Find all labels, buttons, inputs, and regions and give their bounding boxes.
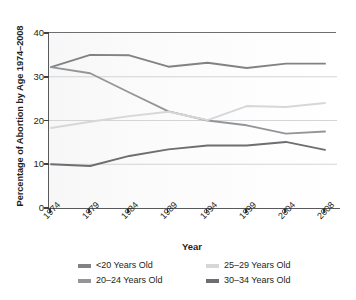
legend-swatch-icon <box>206 264 219 268</box>
legend-swatch-icon <box>206 279 219 283</box>
legend-label: 25–29 Years Old <box>224 258 291 273</box>
y-tick-mark <box>44 163 49 165</box>
legend-label: <20 Years Old <box>96 258 153 273</box>
y-axis-ticks: 010203040 <box>20 0 44 300</box>
chart-legend: <20 Years Old25–29 Years Old20–24 Years … <box>78 258 340 288</box>
legend-item[interactable]: 20–24 Years Old <box>78 273 206 288</box>
y-tick-mark <box>44 120 49 122</box>
legend-label: 30–34 Years Old <box>224 273 291 288</box>
plot-area <box>48 33 337 208</box>
legend-swatch-icon <box>78 279 91 283</box>
y-tick-mark <box>44 76 49 78</box>
series-line <box>51 55 325 68</box>
y-tick-label: 10 <box>22 159 44 169</box>
y-tick-mark <box>44 32 49 34</box>
y-tick-label: 30 <box>22 72 44 82</box>
series-canvas <box>49 33 337 208</box>
legend-item[interactable]: <20 Years Old <box>78 258 206 273</box>
y-tick-label: 20 <box>22 116 44 126</box>
y-tick-label: 40 <box>22 28 44 38</box>
y-tick-label: 0 <box>22 203 44 213</box>
legend-label: 20–24 Years Old <box>96 273 163 288</box>
legend-item[interactable]: 30–34 Years Old <box>206 273 340 288</box>
y-tick-mark <box>44 207 49 209</box>
x-tick-label: 1974 <box>41 200 62 221</box>
data-series-group <box>51 55 325 166</box>
series-line <box>51 142 325 166</box>
chart-figure: Percentage of Abortion by Age 1974–2008 … <box>0 0 356 300</box>
legend-swatch-icon <box>78 264 91 268</box>
legend-item[interactable]: 25–29 Years Old <box>206 258 340 273</box>
series-line <box>51 103 325 128</box>
x-axis-title: Year <box>48 241 336 252</box>
gridlines <box>49 77 337 165</box>
